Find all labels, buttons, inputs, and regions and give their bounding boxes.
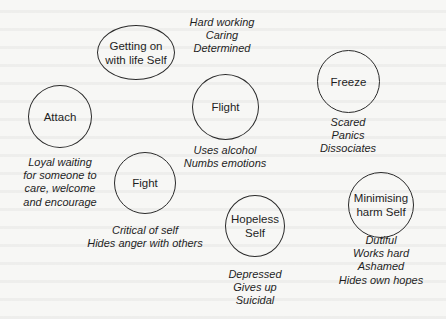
caption-line: Suicidal: [205, 294, 305, 307]
caption-getting-on-with-life-self: Hard working Caring Determined: [172, 16, 272, 56]
node-fight: Fight: [114, 152, 176, 214]
caption-line: Critical of self: [85, 224, 205, 237]
caption-hopeless-self: Depressed Gives up Suicidal: [205, 268, 305, 308]
caption-freeze: Scared Panics Dissociates: [298, 116, 398, 156]
node-minimising-harm-self: Minimising harm Self: [348, 172, 414, 238]
caption-line: for someone to: [10, 169, 110, 182]
node-label-line: Hopeless: [231, 212, 279, 226]
node-hopeless-self: Hopeless Self: [225, 195, 285, 257]
caption-line: Uses alcohol: [175, 144, 275, 157]
caption-line: Depressed: [205, 268, 305, 281]
node-label-line: Getting on: [105, 39, 166, 53]
caption-flight: Uses alcohol Numbs emotions: [175, 144, 275, 170]
caption-line: Caring: [172, 29, 272, 42]
caption-line: Works hard: [331, 247, 431, 260]
node-label-line: Freeze: [331, 75, 367, 89]
node-label-line: Self: [231, 226, 279, 240]
node-freeze: Freeze: [317, 50, 380, 113]
caption-minimising-harm-self: Dutiful Works hard Ashamed Hides own hop…: [331, 234, 431, 287]
node-label-line: Fight: [132, 176, 158, 190]
caption-line: Loyal waiting: [10, 156, 110, 169]
caption-line: Numbs emotions: [175, 157, 275, 170]
caption-line: Dutiful: [331, 234, 431, 247]
node-label-line: Flight: [211, 100, 239, 114]
node-label-line: Minimising: [354, 191, 408, 205]
caption-line: care, welcome: [10, 182, 110, 195]
caption-line: Panics: [298, 129, 398, 142]
caption-line: Hides anger with others: [85, 237, 205, 250]
caption-line: Scared: [298, 116, 398, 129]
node-label-line: Attach: [44, 110, 77, 124]
caption-line: Determined: [172, 42, 272, 55]
caption-fight: Critical of self Hides anger with others: [85, 224, 205, 250]
caption-line: Hides own hopes: [331, 274, 431, 287]
caption-line: Gives up: [205, 281, 305, 294]
caption-line: and encourage: [10, 196, 110, 209]
caption-attach: Loyal waiting for someone to care, welco…: [10, 156, 110, 209]
node-label-line: harm Self: [354, 205, 408, 219]
caption-line: Hard working: [172, 16, 272, 29]
caption-line: Dissociates: [298, 142, 398, 155]
node-label-line: with life Self: [105, 53, 166, 67]
node-getting-on-with-life-self: Getting on with life Self: [97, 25, 175, 80]
node-flight: Flight: [192, 74, 259, 140]
node-attach: Attach: [28, 85, 92, 148]
caption-line: Ashamed: [331, 260, 431, 273]
